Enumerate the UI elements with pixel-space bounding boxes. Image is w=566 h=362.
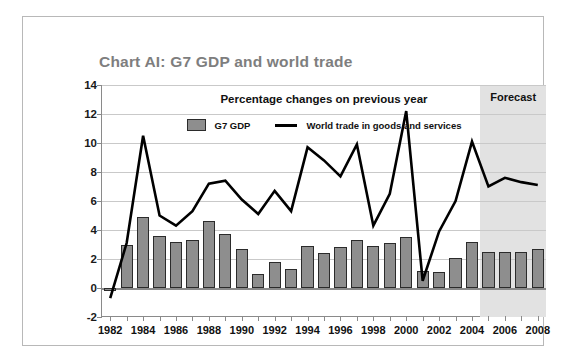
legend-swatch-g7-gdp	[187, 119, 206, 131]
x-axis-tick-label: 1994	[295, 324, 319, 336]
y-axis-tick-mark	[97, 317, 102, 318]
x-axis-tick-label: 1996	[328, 324, 352, 336]
plot-area: 14121086420-2 19821984198619881990199219…	[101, 85, 545, 317]
y-axis-tick-label: 12	[84, 108, 97, 120]
x-axis-tick-label: 1986	[164, 324, 188, 336]
y-axis-tick-label: 14	[84, 79, 97, 91]
legend-swatch-world-trade	[275, 124, 297, 127]
y-axis-tick-label: 10	[84, 137, 97, 149]
x-axis-tick-label: 1990	[230, 324, 254, 336]
chart-legend: G7 GDP World trade in goods and services	[102, 119, 546, 131]
x-axis-tick-label: 1992	[262, 324, 286, 336]
legend-label-world-trade: World trade in goods and services	[306, 120, 461, 131]
chart-screenshot: Chart AI: G7 GDP and world trade 1412108…	[0, 0, 566, 362]
chart-title: Chart AI: G7 GDP and world trade	[99, 53, 353, 71]
x-axis-tick-label: 1988	[197, 324, 221, 336]
x-axis-tick-label: 2002	[427, 324, 451, 336]
world-trade-polyline	[110, 111, 538, 298]
x-axis-tick-label: 1982	[98, 324, 122, 336]
x-axis-tick-label: 1998	[361, 324, 385, 336]
x-axis-tick-label: 2006	[493, 324, 517, 336]
x-axis-tick-label: 2008	[526, 324, 550, 336]
chart-subtitle: Percentage changes on previous year	[102, 93, 546, 105]
forecast-label: Forecast	[490, 91, 536, 103]
y-axis-tick-label: -2	[87, 311, 97, 323]
legend-label-g7-gdp: G7 GDP	[215, 120, 251, 131]
x-axis-tick-label: 2000	[394, 324, 418, 336]
chart-card: Chart AI: G7 GDP and world trade 1412108…	[22, 16, 544, 346]
x-axis-tick-label: 1984	[131, 324, 155, 336]
x-axis-tick-label: 2004	[460, 324, 484, 336]
